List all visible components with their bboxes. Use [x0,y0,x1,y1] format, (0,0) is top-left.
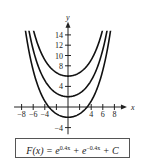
plot-area: −8−6−4468−448101214xy [0,0,146,136]
x-tick-label: 4 [89,110,93,119]
x-tick-label: −8 [17,110,26,119]
formula-mid: + e [70,145,86,156]
formula-lhs: F(x) = e [26,145,59,156]
y-axis-arrow [66,22,71,28]
formula-box: F(x) = e0.4x + e−0.4x + C [15,138,130,158]
y-tick-label: 14 [55,31,63,40]
x-tick-label: −6 [29,110,38,119]
y-axis-label: y [65,13,70,22]
formula-exp2: −0.4x [86,145,100,151]
x-tick-label: −4 [41,110,50,119]
x-tick-label: 6 [101,110,105,119]
y-tick-label: 10 [55,52,63,61]
formula-exp1: 0.4x [60,145,71,151]
x-axis-label: x [130,103,135,112]
y-tick-label: 12 [55,41,63,50]
formula-rhs: + C [100,145,118,156]
y-tick-label: −4 [54,124,63,133]
x-axis-arrow [121,105,127,110]
y-tick-label: 4 [59,82,63,91]
x-tick-label: 8 [112,110,116,119]
y-tick-label: 8 [59,62,63,71]
